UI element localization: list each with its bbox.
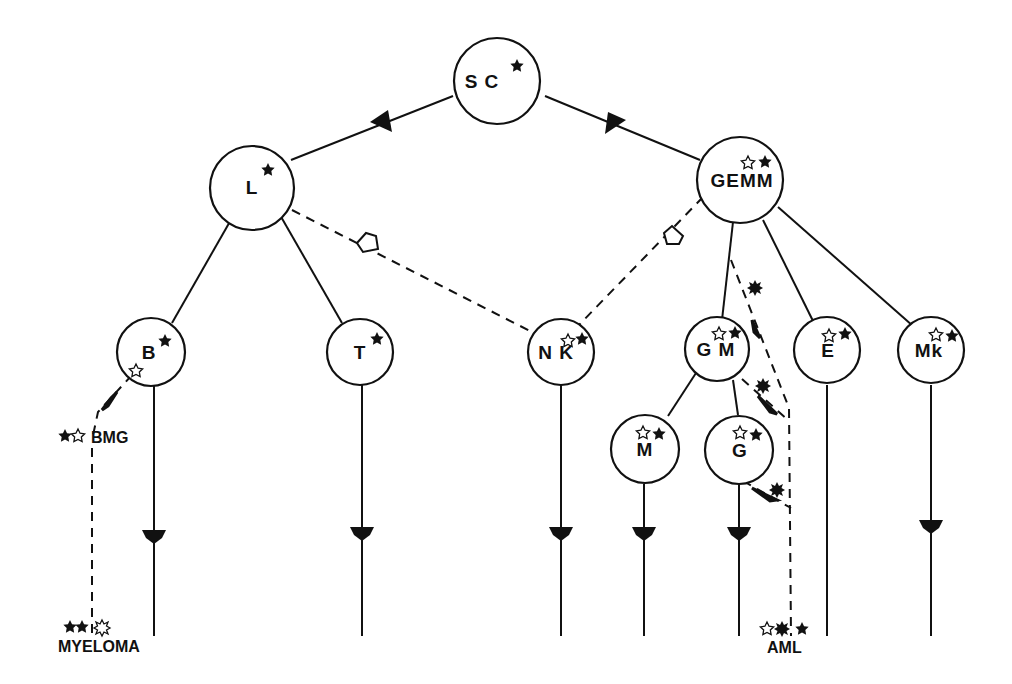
- node-label-mk: Mk: [915, 340, 943, 361]
- open-arrow-l-nk-icon: [357, 233, 378, 252]
- filled-star-icon: [58, 429, 71, 442]
- down-arrow-nk-icon: [549, 527, 573, 541]
- node-l: L: [210, 146, 294, 230]
- node-label-l: L: [246, 177, 259, 198]
- edge-gemm-mk: [778, 207, 913, 326]
- edge-gemm-e: [763, 220, 815, 325]
- node-label-sc: S C: [465, 71, 500, 92]
- node-t: T: [327, 319, 393, 385]
- node-sc: S C: [454, 38, 540, 124]
- filled-sun-icon: [774, 621, 790, 637]
- down-arrow-m-icon: [632, 527, 656, 541]
- down-arrow-t-icon: [350, 527, 374, 541]
- sun-marker-g-aml-icon: [769, 482, 785, 498]
- node-g: G: [705, 416, 773, 484]
- filled-star-icon: [75, 620, 88, 633]
- open-star-icon: [760, 622, 773, 635]
- edge-sc-gemm: [545, 96, 700, 160]
- dashed-edges: [92, 197, 791, 636]
- outcome-aml: AML: [760, 621, 808, 656]
- node-e: E: [794, 317, 860, 383]
- node-label-gemm: GEMM: [710, 170, 773, 191]
- edge-gm-g: [733, 380, 738, 415]
- outcome-label-aml: AML: [767, 639, 802, 656]
- arrow-gm-aml-icon: [758, 396, 777, 414]
- edge-sc-l: [291, 96, 453, 160]
- node-m: M: [611, 415, 679, 483]
- filled-star-icon: [795, 622, 808, 635]
- node-gemm: GEMM: [697, 137, 783, 223]
- down-arrow-g-icon: [727, 527, 751, 541]
- node-label-e: E: [821, 340, 835, 361]
- node-label-gm: G M: [697, 339, 736, 360]
- edge-gm-m: [668, 373, 696, 416]
- lineage-diagram: S C L GEMM B T N K G M E: [0, 0, 1012, 684]
- outcome-label-bmg: BMG: [91, 429, 128, 446]
- node-b: B: [117, 318, 185, 386]
- outcome-myeloma: MYELOMA: [58, 620, 140, 655]
- edge-gemm-gm: [722, 222, 733, 320]
- arrow-sc-gemm-icon: [605, 112, 626, 134]
- node-label-b: B: [142, 342, 157, 363]
- outcome-bmg: BMG: [58, 429, 128, 446]
- edge-l-b: [172, 218, 232, 323]
- sun-marker-gm-aml-icon: [755, 378, 771, 394]
- filled-star-icon: [63, 620, 76, 633]
- open-arrow-gemm-nk-icon: [664, 226, 683, 244]
- open-star-icon: [71, 429, 84, 442]
- node-gm: G M: [685, 317, 749, 381]
- sun-marker-gemm-aml-icon: [747, 280, 763, 296]
- open-sun-icon: [94, 620, 110, 636]
- edge-l-t: [280, 215, 342, 323]
- down-arrow-b-icon: [142, 530, 166, 544]
- node-label-t: T: [354, 342, 367, 363]
- outcome-label-myeloma: MYELOMA: [58, 638, 140, 655]
- node-mk: Mk: [898, 317, 964, 383]
- down-arrow-mk-icon: [919, 520, 943, 534]
- node-label-g: G: [732, 440, 748, 461]
- arrow-b-bmg-icon: [102, 392, 117, 410]
- edge-l-nk: [292, 210, 534, 333]
- node-label-m: M: [637, 439, 654, 460]
- arrow-sc-l-icon: [370, 110, 392, 132]
- edge-gemm-nk: [578, 197, 703, 326]
- node-nk: N K: [528, 319, 594, 385]
